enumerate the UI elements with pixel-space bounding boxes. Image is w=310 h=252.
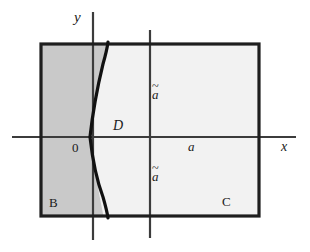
region-c-label: C (222, 195, 231, 208)
region-d-label: D (113, 119, 123, 133)
tilde-accent-upper: ~ (152, 80, 159, 92)
region-b-label: B (49, 196, 58, 209)
a-axis-label: a (188, 140, 195, 153)
math-diagram-figure: y x 0 D ~ a ~ a a B C (0, 0, 310, 252)
tilde-accent-lower: ~ (152, 162, 159, 174)
a-tilde-upper-label: ~ a (152, 88, 159, 101)
y-axis-label: y (74, 10, 81, 25)
origin-label: 0 (72, 141, 79, 154)
a-tilde-lower-label: ~ a (152, 170, 159, 183)
diagram-canvas (0, 0, 310, 252)
x-axis-label: x (281, 140, 287, 154)
